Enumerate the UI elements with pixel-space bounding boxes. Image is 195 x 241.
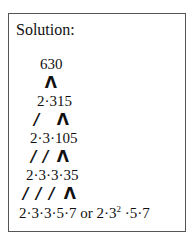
final-prefix: 2·3·3·5·7 or 2·3	[19, 205, 116, 221]
branch-slash-icon: /	[43, 150, 48, 165]
solution-title: Solution:	[16, 22, 75, 38]
branch-slash-icon: /	[36, 187, 41, 202]
factor-row-3: 2·3·3·35	[26, 168, 79, 183]
branch-caret-icon: Λ	[57, 150, 69, 165]
final-factorization: 2·3·3·5·7 or 2·32 ·5·7	[19, 206, 150, 221]
branch-slash-icon: /	[23, 187, 28, 202]
factor-row-1: 2·315	[37, 94, 72, 109]
factor-row-2: 2·3·105	[30, 131, 78, 146]
branch-caret-icon: Λ	[57, 113, 69, 128]
branch-caret-icon: Λ	[64, 187, 76, 202]
final-suffix: ·5·7	[121, 205, 150, 221]
branch-slash-icon: /	[31, 150, 36, 165]
root-number: 630	[40, 57, 63, 72]
branch-slash-icon: /	[34, 113, 39, 128]
branch-slash-icon: /	[49, 187, 54, 202]
branch-caret-icon: Λ	[45, 76, 57, 91]
